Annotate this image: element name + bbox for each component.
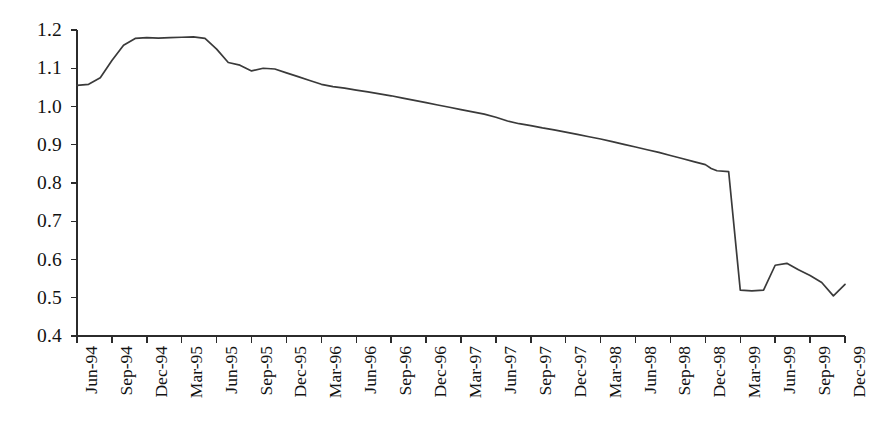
x-tick-label-text: Jun-97 [502,346,520,394]
x-tick-label-text: Dec-98 [711,346,729,398]
x-tick-label-text: Dec-99 [851,346,869,398]
x-tick-label-text: Sep-95 [258,346,276,396]
x-tick-label-text: Mar-99 [746,346,764,398]
chart-container: 1.21.11.00.90.80.70.60.50.4 Jun-94Sep-94… [0,0,871,427]
x-tick-label-text: Jun-95 [223,346,241,394]
x-tick-label-text: Sep-97 [537,346,555,396]
x-tick-label-text: Jun-99 [781,346,799,394]
x-tick-label-text: Jun-96 [362,346,380,394]
x-tick-label-text: Dec-97 [572,346,590,398]
x-tick-label-text: Dec-95 [292,346,310,398]
x-tick-label-text: Sep-94 [118,346,136,396]
x-tick-label-text: Mar-95 [188,346,206,398]
x-tick-label-text: Jun-98 [642,346,660,394]
x-tick-label-text: Dec-96 [432,346,450,398]
x-tick-label-text: Mar-96 [327,346,345,398]
x-tick-label-text: Sep-96 [397,346,415,396]
x-tick-label-text: Dec-94 [153,346,171,398]
x-tick-label-text: Jun-94 [83,346,101,394]
x-tick-label-text: Sep-98 [676,346,694,396]
x-tick-label-text: Sep-99 [816,346,834,396]
x-tick-label-text: Mar-97 [467,346,485,398]
x-tick-label-text: Mar-98 [607,346,625,398]
x-axis-tick-labels: Jun-94Sep-94Dec-94Mar-95Jun-95Sep-95Dec-… [0,0,871,427]
